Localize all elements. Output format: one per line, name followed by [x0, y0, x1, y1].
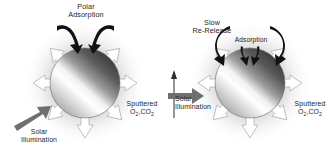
right-slow-rerelease-label: Slow Re-Release — [178, 19, 246, 35]
sputtered-label-formula: O2,CO2 — [286, 108, 334, 119]
left-sputtered-label: Sputtered O2,CO2 — [118, 100, 166, 119]
figure-canvas: Polar Adsorption Solar Illumination Sput… — [0, 0, 334, 165]
solar-label-line1: Solar — [8, 128, 70, 136]
solar-label-line2: Illumination — [8, 136, 70, 144]
solar-label-line1: Solar — [175, 95, 235, 103]
solar-label-line2: Illumination — [175, 103, 235, 111]
right-solar-illumination-label: Solar Illumination — [175, 95, 235, 111]
left-sphere — [50, 48, 120, 118]
left-solar-illumination-label: Solar Illumination — [8, 128, 70, 144]
left-polar-adsorption-label: Polar Adsorption — [50, 3, 122, 19]
sputtered-label-line1: Sputtered — [118, 100, 166, 108]
polar-label-line2: Adsorption — [50, 11, 122, 19]
slow-label-line2: Re-Release — [178, 27, 246, 35]
right-sputtered-label: Sputtered O2,CO2 — [286, 100, 334, 119]
right-adsorption-label: Adsorption — [227, 36, 275, 44]
sputtered-label-line1: Sputtered — [286, 100, 334, 108]
sputtered-label-formula: O2,CO2 — [118, 108, 166, 119]
